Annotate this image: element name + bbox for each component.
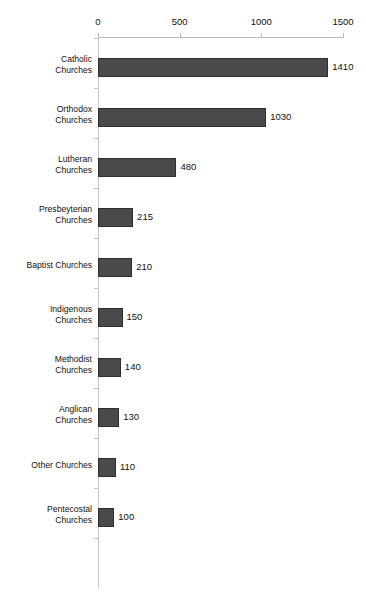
bar-category-label-line: Presbeyterian bbox=[0, 204, 92, 215]
bar-category-label: PentecostalChurches bbox=[0, 504, 92, 526]
bar-value-label: 1030 bbox=[270, 111, 291, 122]
bar-category-label-line: Orthodox bbox=[0, 104, 92, 115]
bar[interactable] bbox=[98, 408, 119, 427]
bar-category-label-line: Churches bbox=[0, 165, 92, 176]
bar-category-label-line: Churches bbox=[0, 315, 92, 326]
bar-value-label: 480 bbox=[180, 161, 196, 172]
bar-value-label: 110 bbox=[120, 461, 135, 472]
bar[interactable] bbox=[98, 58, 328, 77]
bar-category-label: MethodistChurches bbox=[0, 354, 92, 376]
bar-value-label: 215 bbox=[137, 211, 153, 222]
plot-area: CatholicChurches1410OrthodoxChurches1030… bbox=[0, 0, 366, 600]
bar-category-label: IndigenousChurches bbox=[0, 304, 92, 326]
bar[interactable] bbox=[98, 508, 114, 527]
bar-row: OrthodoxChurches1030 bbox=[0, 100, 366, 150]
bar-category-label-line: Churches bbox=[0, 65, 92, 76]
bar[interactable] bbox=[98, 108, 266, 127]
bar[interactable] bbox=[98, 158, 176, 177]
bar-category-label: LutheranChurches bbox=[0, 154, 92, 176]
bar-category-label: Baptist Churches bbox=[0, 260, 92, 271]
bar-value-label: 1410 bbox=[332, 61, 353, 72]
bar[interactable] bbox=[98, 308, 123, 327]
bar-category-label: OrthodoxChurches bbox=[0, 104, 92, 126]
bar-category-label-line: Anglican bbox=[0, 404, 92, 415]
bar-value-label: 100 bbox=[118, 511, 134, 522]
bar-value-label: 210 bbox=[136, 261, 152, 272]
bar-row: IndigenousChurches150 bbox=[0, 300, 366, 350]
bar-category-label: AnglicanChurches bbox=[0, 404, 92, 426]
bar-category-label-line: Churches bbox=[0, 415, 92, 426]
bar-category-label: Other Churches bbox=[0, 460, 92, 471]
bar[interactable] bbox=[98, 258, 132, 277]
bar[interactable] bbox=[98, 458, 116, 477]
bar-row: PresbeyterianChurches215 bbox=[0, 200, 366, 250]
bar-value-label: 130 bbox=[123, 411, 139, 422]
bar-category-label: CatholicChurches bbox=[0, 54, 92, 76]
bar-category-label-line: Baptist Churches bbox=[0, 260, 92, 271]
bar-category-label-line: Churches bbox=[0, 215, 92, 226]
bar-row: MethodistChurches140 bbox=[0, 350, 366, 400]
bar-category-label-line: Pentecostal bbox=[0, 504, 92, 515]
bar-row: CatholicChurches1410 bbox=[0, 50, 366, 100]
bar-category-label-line: Churches bbox=[0, 115, 92, 126]
bar-category-label-line: Indigenous bbox=[0, 304, 92, 315]
bar-category-label-line: Methodist bbox=[0, 354, 92, 365]
bar-row: LutheranChurches480 bbox=[0, 150, 366, 200]
bar-category-label-line: Churches bbox=[0, 515, 92, 526]
bar-category-label: PresbeyterianChurches bbox=[0, 204, 92, 226]
bar-row: Other Churches110 bbox=[0, 450, 366, 500]
bar-value-label: 150 bbox=[127, 311, 143, 322]
bar[interactable] bbox=[98, 208, 133, 227]
bar-category-label-line: Catholic bbox=[0, 54, 92, 65]
bar-row: Baptist Churches210 bbox=[0, 250, 366, 300]
bar-category-label-line: Lutheran bbox=[0, 154, 92, 165]
bar-category-label-line: Churches bbox=[0, 365, 92, 376]
bar-row: PentecostalChurches100 bbox=[0, 500, 366, 550]
bar-chart: 050010001500 CatholicChurches1410Orthodo… bbox=[0, 0, 366, 600]
bar[interactable] bbox=[98, 358, 121, 377]
bar-value-label: 140 bbox=[125, 361, 141, 372]
bar-row: AnglicanChurches130 bbox=[0, 400, 366, 450]
bar-category-label-line: Other Churches bbox=[0, 460, 92, 471]
